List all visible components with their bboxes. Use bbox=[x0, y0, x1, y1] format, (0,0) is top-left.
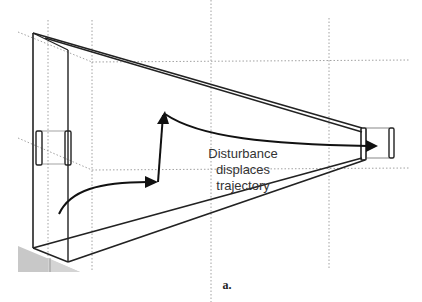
annotation-line-1: Disturbance bbox=[208, 146, 277, 161]
tapered-funnel-frame bbox=[33, 33, 365, 262]
diagram-canvas: Disturbance displaces trajectory a. bbox=[0, 0, 422, 302]
right-opening-ring bbox=[361, 128, 394, 160]
figure-caption: a. bbox=[223, 278, 232, 292]
ground-shading bbox=[18, 246, 80, 272]
annotation-label: Disturbance displaces trajectory bbox=[208, 146, 277, 193]
funnel-diagram: Disturbance displaces trajectory a. bbox=[0, 0, 422, 302]
annotation-line-2: displaces bbox=[216, 162, 271, 177]
annotation-line-3: trajectory bbox=[216, 178, 270, 193]
